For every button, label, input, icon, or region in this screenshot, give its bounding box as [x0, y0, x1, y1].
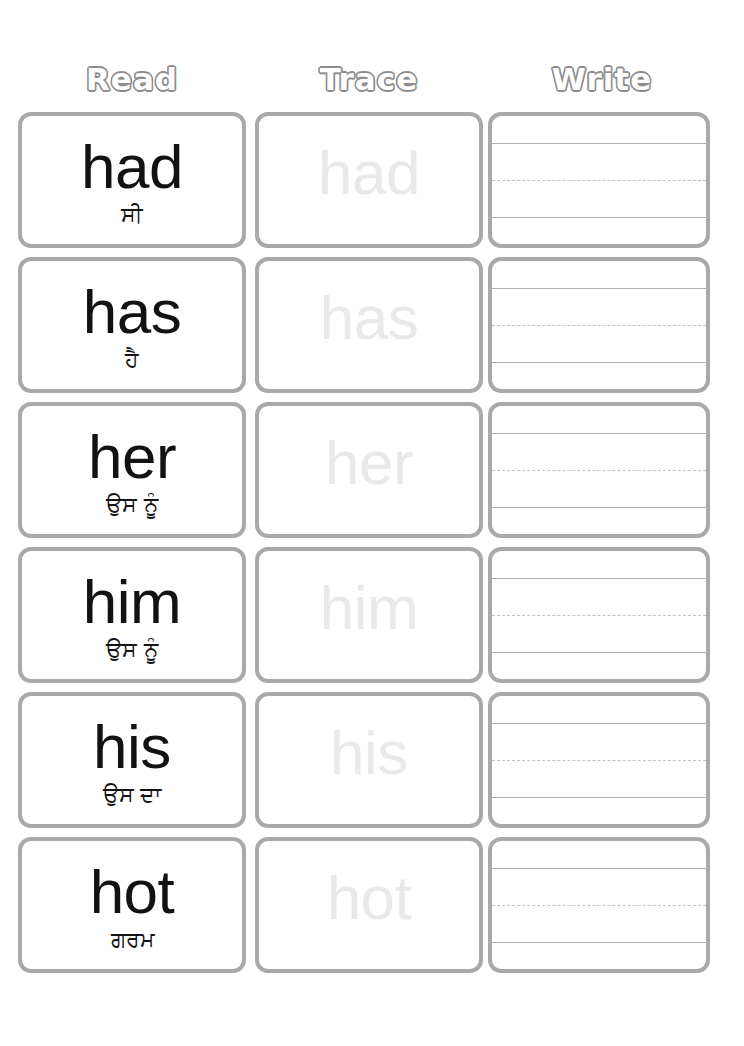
guide-line-baseline — [492, 652, 706, 653]
word-english: had — [81, 137, 183, 197]
worksheet-row: hasਹੈhas — [0, 257, 744, 393]
read-cell: hisਉਸ ਦਾ — [18, 692, 246, 828]
word-translation: ਹੈ — [125, 347, 139, 372]
read-cell-content: hisਉਸ ਦਾ — [22, 696, 242, 824]
guide-line-baseline — [492, 362, 706, 363]
guide-line-top — [492, 288, 706, 289]
worksheet-row: himਉਸ ਨੂੰhim — [0, 547, 744, 683]
column-header-read: Read — [18, 56, 246, 102]
guide-line-middle-dotted — [492, 470, 706, 471]
write-cell[interactable] — [488, 692, 710, 828]
word-trace-guide: him — [320, 578, 418, 638]
trace-cell[interactable]: has — [255, 257, 483, 393]
trace-cell-content: has — [259, 261, 479, 389]
word-trace-guide: had — [318, 143, 420, 203]
guide-line-baseline — [492, 507, 706, 508]
word-translation: ਉਸ ਨੂੰ — [106, 492, 158, 517]
trace-cell[interactable]: had — [255, 112, 483, 248]
guide-line-top — [492, 868, 706, 869]
guide-line-top — [492, 723, 706, 724]
guide-line-middle-dotted — [492, 325, 706, 326]
guide-line-baseline — [492, 942, 706, 943]
trace-cell-content: his — [259, 696, 479, 824]
guide-line-top — [492, 433, 706, 434]
guide-line-middle-dotted — [492, 905, 706, 906]
column-header-trace: Trace — [255, 56, 483, 102]
word-trace-guide: has — [320, 288, 418, 348]
write-cell[interactable] — [488, 547, 710, 683]
guide-line-middle-dotted — [492, 760, 706, 761]
guide-line-top — [492, 143, 706, 144]
word-trace-guide: her — [325, 433, 413, 493]
worksheet-row: hisਉਸ ਦਾhis — [0, 692, 744, 828]
worksheet-row: hadਸੀhad — [0, 112, 744, 248]
worksheet-page: Read Trace Write hadਸੀhadhasਹੈhasherਉਸ ਨ… — [0, 0, 744, 1046]
guide-line-top — [492, 578, 706, 579]
write-cell[interactable] — [488, 402, 710, 538]
read-cell-content: hadਸੀ — [22, 116, 242, 244]
read-cell: hasਹੈ — [18, 257, 246, 393]
trace-cell[interactable]: him — [255, 547, 483, 683]
trace-cell[interactable]: hot — [255, 837, 483, 973]
trace-cell[interactable]: her — [255, 402, 483, 538]
guide-line-middle-dotted — [492, 180, 706, 181]
read-cell: herਉਸ ਨੂੰ — [18, 402, 246, 538]
read-cell-content: hotਗਰਮ — [22, 841, 242, 969]
word-translation: ਸੀ — [121, 202, 143, 227]
read-cell-content: hasਹੈ — [22, 261, 242, 389]
word-translation: ਗਰਮ — [111, 927, 154, 952]
read-cell-content: herਉਸ ਨੂੰ — [22, 406, 242, 534]
word-english: has — [83, 282, 181, 342]
word-english: hot — [90, 862, 175, 922]
trace-cell-content: him — [259, 551, 479, 679]
write-cell[interactable] — [488, 257, 710, 393]
word-english: him — [83, 572, 181, 632]
column-headers: Read Trace Write — [0, 56, 744, 102]
trace-cell-content: her — [259, 406, 479, 534]
trace-cell-content: hot — [259, 841, 479, 969]
trace-cell-content: had — [259, 116, 479, 244]
guide-line-baseline — [492, 217, 706, 218]
trace-cell[interactable]: his — [255, 692, 483, 828]
read-cell-content: himਉਸ ਨੂੰ — [22, 551, 242, 679]
read-cell: hadਸੀ — [18, 112, 246, 248]
word-english: her — [88, 427, 176, 487]
guide-line-baseline — [492, 797, 706, 798]
read-cell: hotਗਰਮ — [18, 837, 246, 973]
word-trace-guide: his — [330, 723, 408, 783]
write-cell[interactable] — [488, 112, 710, 248]
column-header-write: Write — [488, 56, 716, 102]
worksheet-row: hotਗਰਮhot — [0, 837, 744, 973]
word-trace-guide: hot — [327, 868, 412, 928]
read-cell: himਉਸ ਨੂੰ — [18, 547, 246, 683]
guide-line-middle-dotted — [492, 615, 706, 616]
word-english: his — [93, 717, 171, 777]
write-cell[interactable] — [488, 837, 710, 973]
worksheet-row: herਉਸ ਨੂੰher — [0, 402, 744, 538]
word-translation: ਉਸ ਨੂੰ — [106, 637, 158, 662]
word-translation: ਉਸ ਦਾ — [103, 782, 162, 807]
